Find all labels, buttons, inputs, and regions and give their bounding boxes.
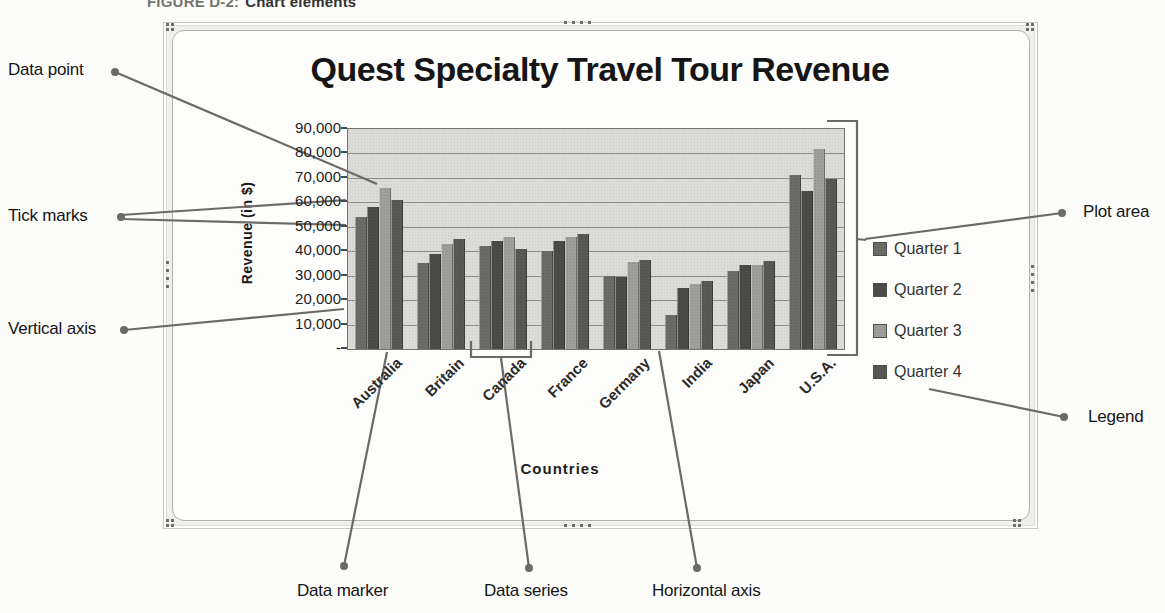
y-tick-label: 40,000: [261, 241, 341, 258]
bar-france-quarter-4: [577, 234, 589, 349]
bar-germany-quarter-3: [627, 262, 639, 349]
bar-france-quarter-1: [541, 251, 553, 349]
y-tick-label: 30,000: [261, 266, 341, 283]
data-marker-dot: [340, 562, 348, 570]
callout-legend: Legend: [1088, 407, 1144, 427]
bar-france-quarter-3: [565, 237, 577, 349]
y-tick-mark: [341, 176, 347, 178]
y-tick-mark: [341, 225, 347, 227]
y-tick-mark: [341, 274, 347, 276]
callout-tick-marks: Tick marks: [8, 206, 88, 226]
resize-handle-bottom-left: [166, 519, 169, 522]
bar-u-s-a-quarter-3: [813, 149, 825, 349]
x-axis-title: Countries: [460, 460, 660, 477]
bar-india-quarter-4: [701, 281, 713, 349]
y-tick-label: 20,000: [261, 290, 341, 307]
callout-data-marker: Data marker: [297, 581, 388, 601]
resize-handle-top: [564, 21, 594, 24]
bar-britain-quarter-2: [429, 254, 441, 349]
bar-india-quarter-3: [689, 284, 701, 349]
resize-handle-bottom-right: [1013, 519, 1016, 522]
bar-canada-quarter-2: [491, 241, 503, 349]
bar-india-quarter-1: [665, 315, 677, 349]
callout-data-series: Data series: [484, 581, 568, 601]
bar-canada-quarter-3: [503, 237, 515, 349]
tick-marks-dot: [117, 213, 125, 221]
legend-swatch-icon: [873, 242, 887, 256]
bar-japan-quarter-3: [751, 265, 763, 349]
y-tick-mark: [341, 347, 347, 349]
legend-entry-quarter-1: Quarter 1: [873, 240, 962, 258]
bar-india-quarter-2: [677, 288, 689, 349]
bar-germany-quarter-4: [639, 260, 651, 349]
y-tick-label: 50,000: [261, 217, 341, 234]
legend-label: Quarter 4: [894, 363, 962, 381]
bar-canada-quarter-1: [479, 246, 491, 349]
bar-australia-quarter-3: [379, 188, 391, 349]
legend-label: Quarter 3: [894, 322, 962, 340]
bar-japan-quarter-2: [739, 265, 751, 349]
resize-handle-left: [166, 258, 169, 288]
y-tick-mark: [341, 127, 347, 129]
legend-swatch-icon: [873, 324, 887, 338]
legend: Quarter 1Quarter 2Quarter 3Quarter 4: [873, 240, 962, 381]
bar-britain-quarter-1: [417, 263, 429, 349]
bar-australia-quarter-4: [391, 200, 403, 349]
legend-entry-quarter-2: Quarter 2: [873, 281, 962, 299]
bar-france-quarter-2: [553, 241, 565, 349]
resize-handle-right: [1031, 262, 1034, 292]
plot-area: [347, 128, 845, 350]
chart-title: Quest Specialty Travel Tour Revenue: [180, 50, 1020, 89]
bar-canada-quarter-4: [515, 249, 527, 349]
bar-britain-quarter-3: [441, 244, 453, 349]
plot-area-dot: [1058, 209, 1066, 217]
callout-data-point: Data point: [8, 60, 84, 80]
y-tick-label: 90,000: [261, 119, 341, 136]
y-tick-mark: [341, 323, 347, 325]
gridline: [348, 227, 844, 228]
scanned-book-page: FIGURE D-2:Chart elements Quest Specialt…: [0, 0, 1165, 613]
callout-plot-area: Plot area: [1083, 202, 1149, 222]
legend-entry-quarter-3: Quarter 3: [873, 322, 962, 340]
y-tick-label: 80,000: [261, 143, 341, 160]
bar-britain-quarter-4: [453, 239, 465, 349]
legend-label: Quarter 2: [894, 281, 962, 299]
callout-vertical-axis: Vertical axis: [8, 319, 96, 339]
y-tick-mark: [341, 298, 347, 300]
bar-japan-quarter-1: [727, 271, 739, 349]
figure-title: Chart elements: [245, 0, 356, 10]
gridline: [348, 178, 844, 179]
y-tick-mark: [341, 200, 347, 202]
legend-dot: [1060, 413, 1068, 421]
y-tick-mark: [341, 151, 347, 153]
y-axis-title: Revenue (in $): [239, 182, 255, 285]
bar-u-s-a-quarter-4: [825, 179, 837, 349]
vertical-axis-dot: [120, 326, 128, 334]
bar-germany-quarter-2: [615, 277, 627, 349]
data-series-dot: [525, 564, 533, 572]
gridline: [348, 251, 844, 252]
legend-label: Quarter 1: [894, 240, 962, 258]
bar-australia-quarter-1: [355, 217, 367, 349]
bar-u-s-a-quarter-2: [801, 191, 813, 349]
legend-swatch-icon: [873, 365, 887, 379]
gridline: [348, 202, 844, 203]
bar-australia-quarter-2: [367, 207, 379, 349]
callout-horizontal-axis: Horizontal axis: [652, 581, 761, 601]
resize-handle-top-left: [166, 23, 169, 26]
resize-handle-bottom: [564, 524, 594, 527]
resize-handle-top-right: [1026, 23, 1029, 26]
bar-japan-quarter-4: [763, 261, 775, 349]
figure-caption: FIGURE D-2:Chart elements: [147, 0, 356, 10]
gridline: [348, 153, 844, 154]
bar-u-s-a-quarter-1: [789, 175, 801, 349]
y-tick-mark: [341, 249, 347, 251]
data-point-dot: [111, 68, 119, 76]
y-tick-label: 70,000: [261, 168, 341, 185]
figure-number: FIGURE D-2:: [147, 0, 239, 10]
legend-swatch-icon: [873, 283, 887, 297]
y-tick-label: 10,000: [261, 315, 341, 332]
y-tick-label: 60,000: [261, 192, 341, 209]
legend-entry-quarter-4: Quarter 4: [873, 363, 962, 381]
y-tick-label: -: [261, 339, 341, 356]
